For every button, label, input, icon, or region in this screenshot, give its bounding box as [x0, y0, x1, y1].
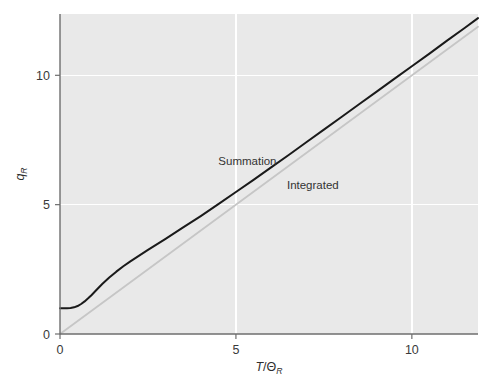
x-tick-label: 0	[57, 343, 64, 357]
y-tick-label: 10	[36, 69, 50, 83]
chart-svg: 05100510 SummationIntegrated T/ΘR qR	[0, 0, 496, 385]
x-axis-title-subscript: R	[276, 366, 282, 376]
x-axis-title-theta: Θ	[267, 360, 277, 374]
chart-figure: 05100510 SummationIntegrated T/ΘR qR	[0, 0, 496, 385]
x-tick-label: 5	[232, 343, 239, 357]
y-axis-title-symbol: q	[13, 174, 27, 181]
annotation-integrated: Integrated	[287, 179, 339, 191]
y-tick-label: 5	[43, 198, 50, 212]
plot-area-background	[60, 14, 478, 334]
x-tick-label: 10	[405, 343, 419, 357]
y-axis-title-subscript: R	[19, 167, 29, 173]
annotation-summation: Summation	[218, 155, 276, 167]
y-tick-label: 0	[43, 328, 50, 342]
